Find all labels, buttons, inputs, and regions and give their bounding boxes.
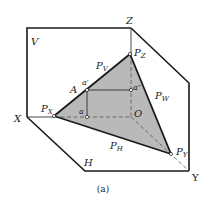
label-origin-o: O — [134, 108, 142, 119]
label-px: PX — [40, 103, 54, 116]
label-py: PY — [175, 146, 189, 159]
label-pz: PZ — [133, 47, 146, 60]
figure-caption: (a) — [97, 184, 109, 194]
label-ph: PH — [109, 140, 124, 153]
label-axis-y: Y — [191, 172, 199, 183]
label-axis-z: Z — [125, 15, 134, 26]
label-point-A: A — [69, 84, 77, 95]
point-px-marker — [52, 114, 55, 117]
label-point-a-double-prime: a″ — [133, 83, 141, 92]
projection-diagram: V H Z X Y O PV PZ PW PX PH PY A a′ a″ a … — [0, 0, 207, 205]
label-v-plane: V — [31, 36, 40, 47]
point-py-marker — [169, 152, 172, 155]
label-pv: PV — [95, 60, 109, 73]
label-h-plane: H — [83, 157, 93, 168]
point-pz-marker — [128, 52, 131, 55]
point-a-marker — [85, 115, 88, 118]
label-axis-x: X — [13, 113, 22, 124]
label-point-a-prime: a′ — [82, 78, 89, 87]
label-pw: PW — [154, 90, 170, 103]
point-a-prime-marker — [85, 88, 88, 91]
label-point-a: a — [79, 107, 84, 116]
